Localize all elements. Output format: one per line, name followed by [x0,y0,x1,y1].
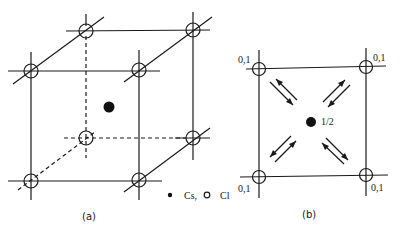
panel-a-cube [8,12,212,200]
panel-b-caption: (b) [302,209,316,220]
figure-canvas: Cs, Cl (a) [0,0,401,234]
cs-atom [104,102,115,113]
panel-b-square: 0,1 0,1 0,1 0,1 1/2 [238,48,388,198]
center-label: 1/2 [321,116,334,127]
cl-legend-label: Cl [220,190,230,201]
corner-label-top-right: 0,1 [373,52,386,63]
corner-label-bottom-left: 0,1 [238,183,251,194]
legend: Cs, Cl [168,190,230,201]
cs-legend-icon [168,193,172,197]
cs-legend-label: Cs, [184,190,197,201]
cs-atom [306,117,316,127]
panel-a-caption: (a) [82,211,96,222]
corner-label-top-left: 0,1 [238,54,251,65]
cl-legend-icon [204,192,210,198]
corner-label-bottom-right: 0,1 [371,182,384,193]
